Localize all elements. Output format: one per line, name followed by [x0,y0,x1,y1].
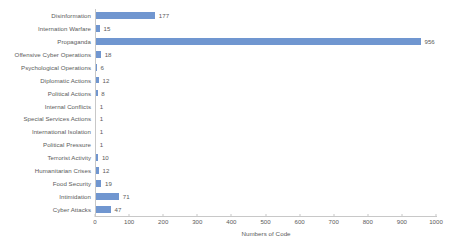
bar-track: 8 [95,87,450,100]
bar-track: 19 [95,177,450,190]
x-axis-tick-label: 200 [158,217,168,227]
bar-row: Internal Conflicts1 [0,100,450,113]
x-axis-tick-label: 800 [363,217,373,227]
bar-value-label: 956 [424,38,434,45]
bar-row: Offensive Cyber Operations18 [0,48,450,61]
bar [95,38,421,45]
bar [95,193,119,200]
bar-category-label: Humanitarian Crises [0,167,95,174]
bar-category-label: Internal Conflicts [0,103,95,110]
bar-value-label: 18 [105,51,112,58]
bar-track: 12 [95,74,450,87]
bar-value-label: 6 [101,64,104,71]
bar-row: Cyber Attacks47 [0,203,450,216]
bar-track: 15 [95,22,450,35]
bar-category-label: Political Actions [0,90,95,97]
bar-row: Diplomatic Actions12 [0,74,450,87]
x-axis-tick-label: 700 [329,217,339,227]
x-axis-tick-label: 900 [397,217,407,227]
bar-track: 1 [95,100,450,113]
bar-row: Psychological Operations6 [0,61,450,74]
bar-track: 177 [95,9,450,22]
bar-value-label: 8 [101,90,104,97]
category-axis-line [95,9,96,217]
bar-category-label: Propaganda [0,38,95,45]
bar-category-label: Internation Warfare [0,25,95,32]
bar-value-label: 15 [104,25,111,32]
x-axis-title: Numbers of Code [95,229,437,238]
x-axis-tick-label: 600 [295,217,305,227]
plot-area: Disinformation177Internation Warfare15Pr… [0,9,450,216]
bar-row: Special Services Actions1 [0,113,450,126]
bar-track: 71 [95,190,450,203]
bar-row: Internation Warfare15 [0,22,450,35]
bar-category-label: Disinformation [0,12,95,19]
bar-row: Disinformation177 [0,9,450,22]
bar-row: Terrorist Activity10 [0,151,450,164]
bar-track: 6 [95,61,450,74]
bar-category-label: Offensive Cyber Operations [0,51,95,58]
bar-value-label: 71 [123,193,130,200]
bar-category-label: Political Pressure [0,141,95,148]
bar-category-label: Food Security [0,180,95,187]
x-axis-tick-label: 1000 [429,217,443,227]
bar-track: 12 [95,164,450,177]
bar-value-label: 12 [103,167,110,174]
bar-value-label: 1 [100,141,103,148]
bar-row: Food Security19 [0,177,450,190]
bar-chart: Disinformation177Internation Warfare15Pr… [0,0,450,246]
bar-track: 10 [95,151,450,164]
x-axis-tick-label: 0 [93,217,96,227]
bar-track: 1 [95,125,450,138]
bar-category-label: Psychological Operations [0,64,95,71]
bar-row: Political Pressure1 [0,138,450,151]
bar [95,206,111,213]
bar-value-label: 1 [100,115,103,122]
bar-value-label: 1 [100,103,103,110]
bar-category-label: International Isolation [0,128,95,135]
x-axis-tick-labels: 01002003004005006007008009001000 [95,217,437,229]
bar-row: Political Actions8 [0,87,450,100]
bar-track: 956 [95,35,450,48]
bar-category-label: Diplomatic Actions [0,77,95,84]
bar-row: Intimidation71 [0,190,450,203]
x-axis-tick-label: 500 [260,217,270,227]
bar-value-label: 19 [105,180,112,187]
bar-value-label: 1 [100,128,103,135]
bar-category-label: Intimidation [0,193,95,200]
x-axis-tick-label: 300 [192,217,202,227]
bar-track: 1 [95,138,450,151]
bar-row: International Isolation1 [0,125,450,138]
bar-value-label: 47 [115,206,122,213]
bar-track: 18 [95,48,450,61]
bar-category-label: Terrorist Activity [0,154,95,161]
bar-value-label: 10 [102,154,109,161]
bar-track: 47 [95,203,450,216]
bar-row: Propaganda956 [0,35,450,48]
bar-category-label: Cyber Attacks [0,206,95,213]
bar-track: 1 [95,113,450,126]
x-axis-tick-label: 100 [124,217,134,227]
bar [95,12,155,19]
x-axis-tick-label: 400 [226,217,236,227]
bar-row: Humanitarian Crises12 [0,164,450,177]
bar-value-label: 177 [159,12,169,19]
bar-value-label: 12 [103,77,110,84]
bar-category-label: Special Services Actions [0,115,95,122]
